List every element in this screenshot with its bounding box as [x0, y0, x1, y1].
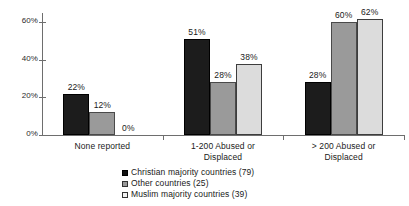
x-axis-category-label-line: Displaced [283, 152, 404, 163]
bar[interactable] [63, 94, 89, 135]
plot-area: 0%20%40%60% 22%12%0%51%28%38%28%60%62% [42, 13, 404, 135]
x-axis-line [42, 135, 404, 136]
bar-value-label: 62% [361, 7, 378, 17]
legend-item[interactable]: Other countries (25) [122, 178, 322, 189]
bar-slot: 22% [63, 13, 89, 135]
legend-item[interactable]: Christian majority countries (79) [122, 167, 322, 178]
bar-slot: 28% [210, 13, 236, 135]
legend-item-label: Christian majority countries (79) [131, 167, 254, 178]
bar-value-label: 22% [68, 82, 85, 92]
x-axis-separator-tick [163, 135, 164, 140]
bar-slot: 51% [184, 13, 210, 135]
bar[interactable] [305, 82, 331, 135]
bar-group: 51%28%38% [163, 13, 284, 135]
legend-item-label: Other countries (25) [131, 178, 209, 189]
bar-groups: 22%12%0%51%28%38%28%60%62% [42, 13, 404, 135]
bar-group: 28%60%62% [283, 13, 404, 135]
bar-value-label: 12% [94, 100, 111, 110]
bar-chart: 0%20%40%60% 22%12%0%51%28%38%28%60%62% N… [0, 0, 409, 206]
legend-swatch-gray [122, 181, 128, 187]
x-axis-category-label: None reported [42, 141, 163, 152]
bar-slot: 60% [331, 13, 357, 135]
bar[interactable] [184, 39, 210, 135]
bar-cluster: 22%12%0% [42, 13, 163, 135]
x-axis-category-label-line: > 200 Abused or [283, 141, 404, 152]
x-axis-category-label-line: None reported [42, 141, 163, 152]
bar-value-label: 51% [188, 27, 205, 37]
bar[interactable] [89, 112, 115, 135]
bar-value-label: 0% [122, 123, 135, 133]
bar[interactable] [331, 22, 357, 135]
chart-legend: Christian majority countries (79)Other c… [122, 167, 322, 200]
bar[interactable] [210, 82, 236, 135]
category-labels: None reported1-200 Abused orDisplaced> 2… [42, 141, 404, 165]
bar-value-label: 60% [335, 10, 352, 20]
x-axis-separator-tick [283, 135, 284, 140]
bar-value-label: 38% [240, 52, 257, 62]
x-axis-category-label: > 200 Abused orDisplaced [283, 141, 404, 163]
bar[interactable] [236, 64, 262, 135]
bar-cluster: 51%28%38% [163, 13, 284, 135]
legend-item-label: Muslim majority countries (39) [131, 189, 247, 200]
bar-cluster: 28%60%62% [283, 13, 404, 135]
legend-item[interactable]: Muslim majority countries (39) [122, 189, 322, 200]
bar-slot: 38% [236, 13, 262, 135]
bar-slot: 62% [357, 13, 383, 135]
bar-slot: 12% [89, 13, 115, 135]
y-axis-tick-label: 20% [22, 91, 38, 101]
y-axis-tick-label: 40% [22, 54, 38, 64]
legend-swatch-black [122, 170, 128, 176]
x-axis-category-label-line: Displaced [163, 152, 284, 163]
bar-value-label: 28% [309, 70, 326, 80]
bar[interactable] [357, 19, 383, 135]
x-axis-category-label: 1-200 Abused orDisplaced [163, 141, 284, 163]
bar-group: 22%12%0% [42, 13, 163, 135]
x-axis-category-label-line: 1-200 Abused or [163, 141, 284, 152]
bar-value-label: 28% [214, 70, 231, 80]
x-axis-separator-tick [404, 135, 405, 140]
bar-slot: 0% [115, 13, 141, 135]
y-axis-tick-label: 0% [26, 129, 38, 139]
y-axis-tick-mark [39, 135, 46, 136]
legend-swatch-light [122, 192, 128, 198]
y-axis-tick-label: 60% [22, 16, 38, 26]
bar-slot: 28% [305, 13, 331, 135]
